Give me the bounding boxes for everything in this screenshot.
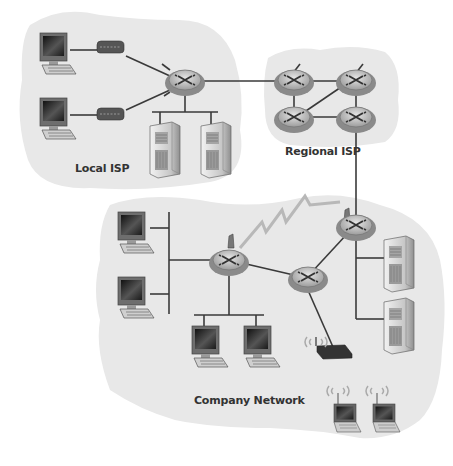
server-icon	[150, 122, 180, 178]
router-icon	[209, 250, 249, 276]
company-network-label: Company Network	[194, 394, 305, 407]
router-icon	[336, 107, 376, 133]
regional-isp-cloud	[264, 47, 399, 147]
server-icon	[384, 298, 414, 354]
regional-isp-label: Regional ISP	[285, 145, 361, 158]
server-icon	[201, 122, 231, 178]
local-isp-label: Local ISP	[75, 162, 129, 175]
modem-icon	[97, 108, 124, 120]
router-icon	[165, 70, 205, 96]
router-icon	[288, 267, 328, 293]
server-icon	[384, 236, 414, 292]
router-icon	[336, 215, 376, 241]
router-icon	[274, 70, 314, 96]
router-icon	[274, 107, 314, 133]
router-icon	[336, 70, 376, 96]
modem-icon	[97, 41, 124, 53]
